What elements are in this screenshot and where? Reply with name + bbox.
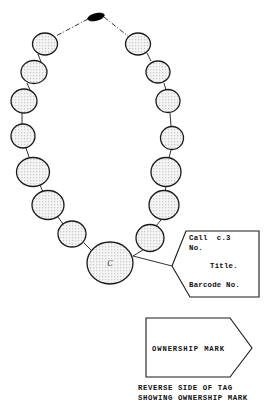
bead-left-1 [33,33,58,55]
cord-segment-left-upper [56,19,88,36]
tag-line-no: No. [189,244,203,252]
bead-right-1 [126,33,151,55]
ownership-mark-label: OWNERSHIP MARK [152,345,225,353]
bead-right-7 [136,225,164,252]
bead-right-5 [151,158,181,187]
bead-shape [17,158,50,187]
bead-left-3 [11,89,37,113]
bead-shape [33,33,58,55]
bead-shape [21,61,47,84]
bead-group: C [11,33,184,284]
large-bead-with-ownership-mark: C [87,242,133,284]
bead-shape [58,221,86,247]
bead-shape [161,127,184,150]
bead-shape [146,61,170,83]
bead-shape [151,158,181,187]
cord-segment-right-upper [104,17,129,37]
bead-shape [11,124,35,148]
tag-line-title: Title. [210,262,238,270]
bead-shape [149,191,179,220]
catalogue-tag-group: Call c.3 No. Title. Barcode No. [172,231,259,297]
tag-line-call-no: Call c.3 [189,234,231,242]
bead-right-2 [146,61,170,83]
bead-shape [32,191,64,220]
bead-left-6 [32,191,64,220]
bead-shape [126,33,151,55]
caption-line-1: REVERSE SIDE OF TAG [138,384,233,392]
bead-left-4 [11,124,35,148]
reverse-tag-caption: REVERSE SIDE OF TAG SHOWING OWNERSHIP MA… [138,384,248,402]
bead-right-3 [156,90,180,113]
reverse-tag-group: OWNERSHIP MARK [146,318,252,377]
caption-line-2: SHOWING OWNERSHIP MARK [138,394,248,402]
bead-shape [11,89,37,113]
bead-shape [136,225,164,252]
bead-right-4 [161,127,184,150]
bead-right-6 [149,191,179,220]
clasp [87,12,105,23]
tag-line-barcode-no: Barcode No. [189,281,240,289]
figure-canvas: C Call c.3 No. Title. Barcode No. OWNERS… [0,0,266,407]
bead-shape [156,90,180,113]
bead-ownership-mark: C [107,259,113,268]
bead-left-5 [17,158,50,187]
bead-left-7 [58,221,86,247]
cord-to-tag [133,256,172,266]
clasp-group [87,12,105,23]
necklace-tag-diagram: C Call c.3 No. Title. Barcode No. OWNERS… [0,0,266,407]
bead-left-2 [21,61,47,84]
